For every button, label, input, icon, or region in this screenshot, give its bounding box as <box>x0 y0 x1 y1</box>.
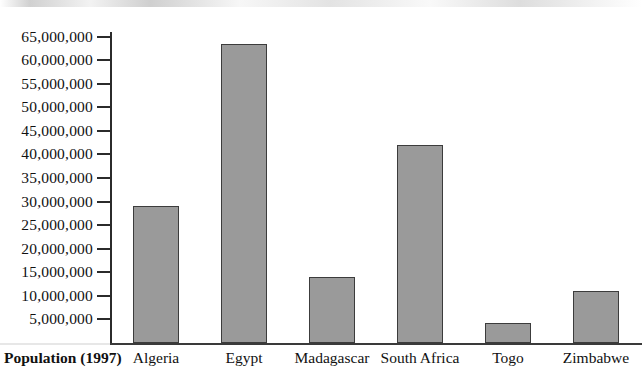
y-axis-tick <box>97 130 110 132</box>
y-axis-tick-label: 35,000,000 <box>0 170 93 186</box>
y-axis-tick-label: 40,000,000 <box>0 146 93 162</box>
x-axis-category-label: Egypt <box>200 349 288 366</box>
y-axis-tick <box>97 153 110 155</box>
y-axis-tick-label: 55,000,000 <box>0 76 93 92</box>
y-axis-tick-label: 5,000,000 <box>0 311 93 327</box>
y-axis-tick-label: 45,000,000 <box>0 123 93 139</box>
y-axis-tick-label: 10,000,000 <box>0 288 93 304</box>
y-axis-tick <box>97 177 110 179</box>
y-axis-tick-label: 50,000,000 <box>0 99 93 115</box>
x-axis-line <box>110 343 642 345</box>
bar <box>485 323 531 343</box>
bar-chart: 5,000,00010,000,00015,000,00020,000,0002… <box>0 0 642 381</box>
y-axis-tick-label: 60,000,000 <box>0 52 93 68</box>
y-axis-tick <box>97 36 110 38</box>
y-axis-tick-label: 25,000,000 <box>0 217 93 233</box>
x-axis-title: Population (1997) <box>4 349 122 366</box>
y-axis-tick-label: 65,000,000 <box>0 29 93 45</box>
bar <box>573 291 619 343</box>
y-axis-line <box>110 32 112 344</box>
bar <box>133 206 179 343</box>
bar <box>221 44 267 343</box>
x-axis-category-label: Togo <box>464 349 552 366</box>
x-axis-left-extension <box>0 343 110 345</box>
y-axis-tick-label: 15,000,000 <box>0 264 93 280</box>
bar <box>397 145 443 343</box>
y-axis-tick <box>97 59 110 61</box>
y-axis-tick <box>97 83 110 85</box>
x-axis-category-label: South Africa <box>376 349 464 366</box>
y-axis-tick-label: 20,000,000 <box>0 241 93 257</box>
x-axis-category-label: Zimbabwe <box>552 349 640 366</box>
y-axis-tick <box>97 224 110 226</box>
y-axis-tick <box>97 295 110 297</box>
y-axis-tick-label: 30,000,000 <box>0 194 93 210</box>
y-axis-tick <box>97 318 110 320</box>
x-axis-category-label: Madagascar <box>288 349 376 366</box>
y-axis-tick <box>97 106 110 108</box>
y-axis-tick <box>97 201 110 203</box>
x-axis-category-label: Algeria <box>112 349 200 366</box>
scan-edge-artifact <box>0 0 642 7</box>
bar <box>309 277 355 343</box>
y-axis-tick <box>97 248 110 250</box>
y-axis-tick <box>97 271 110 273</box>
